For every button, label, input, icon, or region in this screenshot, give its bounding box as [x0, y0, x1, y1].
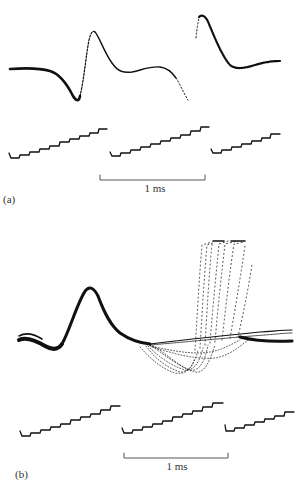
panel-a-label: (a) [3, 193, 15, 205]
staircase-b-1 [20, 406, 120, 436]
waveform-a-2 [199, 16, 280, 68]
waveform-a-1-tail [176, 78, 188, 100]
panel-b-traces [19, 241, 294, 458]
scale-bar-b [124, 453, 228, 458]
waveform-a-2-rise [196, 18, 199, 38]
figure-canvas [0, 0, 307, 496]
waveform-b-peak [62, 288, 150, 344]
staircase-b-3 [225, 412, 294, 431]
panel-a-traces [9, 16, 280, 180]
waveform-a-1-rise [80, 31, 95, 96]
waveform-b-start [19, 339, 62, 349]
staircase-a-3 [211, 134, 280, 153]
waveform-b-descending-family [140, 340, 248, 373]
staircase-b-2 [122, 403, 223, 433]
waveform-b-lower-right [240, 337, 292, 341]
scale-bar-a [100, 175, 205, 180]
staircase-a-1 [9, 129, 107, 158]
scale-bar-b-label: 1 ms [152, 460, 202, 472]
panel-b-label: (b) [15, 468, 28, 480]
waveform-a-1 [10, 68, 80, 100]
waveform-a-1-fall [95, 32, 176, 78]
staircase-a-2 [110, 127, 209, 156]
waveform-b-upper-line-2 [150, 333, 292, 345]
scale-bar-a-label: 1 ms [130, 182, 180, 194]
